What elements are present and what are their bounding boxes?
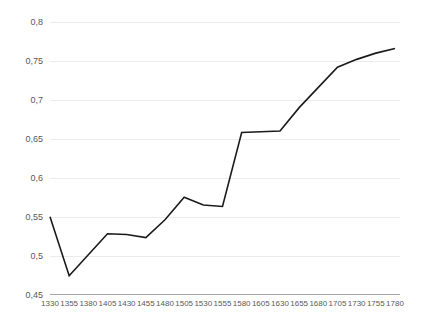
x-axis-tick-labels: 1330135513801405143014551480150515301555… [41, 299, 404, 308]
y-axis-tick-label: 0,5 [30, 251, 43, 261]
x-axis-tick-label: 1680 [309, 299, 327, 308]
x-axis-tick-label: 1380 [79, 299, 97, 308]
y-axis-tick-label: 0,65 [25, 134, 43, 144]
x-axis-tick-label: 1455 [137, 299, 155, 308]
y-axis-tick-label: 0,7 [30, 95, 43, 105]
x-axis-tick-label: 1630 [271, 299, 289, 308]
x-axis-tick-label: 1730 [348, 299, 366, 308]
x-axis-tick-label: 1430 [118, 299, 136, 308]
x-axis-tick-label: 1330 [41, 299, 59, 308]
x-axis-tick-label: 1580 [233, 299, 251, 308]
x-axis-tick-label: 1480 [156, 299, 174, 308]
x-axis-tick-label: 1755 [367, 299, 385, 308]
y-axis-tick-label: 0,75 [25, 56, 43, 66]
x-axis-tick-label: 1530 [194, 299, 212, 308]
x-axis-tick-label: 1555 [214, 299, 232, 308]
line-chart-container: 0,450,50,550,60,650,70,750,8 13301355138… [0, 0, 428, 316]
x-axis-tick-label: 1605 [252, 299, 270, 308]
x-axis-tick-label: 1655 [290, 299, 308, 308]
y-axis-tick-label: 0,55 [25, 212, 43, 222]
x-axis-tick-label: 1505 [175, 299, 193, 308]
chart-background [0, 0, 428, 316]
x-axis-tick-label: 1705 [329, 299, 347, 308]
x-axis-tick-label: 1355 [60, 299, 78, 308]
y-axis-tick-label: 0,6 [30, 173, 43, 183]
x-axis-tick-label: 1405 [99, 299, 117, 308]
line-chart-svg: 0,450,50,550,60,650,70,750,8 13301355138… [0, 0, 428, 316]
x-axis-tick-label: 1780 [386, 299, 404, 308]
y-axis-tick-label: 0,8 [30, 17, 43, 27]
